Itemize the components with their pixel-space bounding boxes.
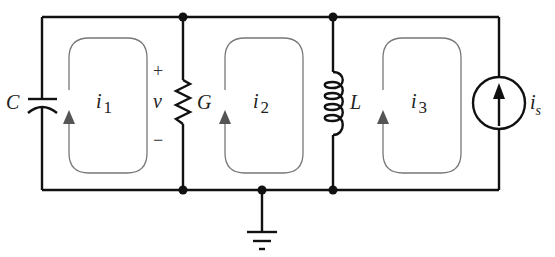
capacitor-label: C <box>6 91 20 113</box>
capacitor: C <box>6 91 57 113</box>
inductor: L <box>325 72 361 135</box>
mesh-current-2-sub: 2 <box>261 98 270 117</box>
resistor-zigzag <box>176 80 190 124</box>
voltage-plus-sign: + <box>153 61 163 81</box>
voltage-label: v <box>153 90 162 112</box>
current-source: is <box>473 77 542 129</box>
mesh-current-3-label: i3 <box>411 90 427 117</box>
resistor: G <box>176 80 212 124</box>
inductor-coil <box>325 72 343 135</box>
mesh-current-3-sub: 3 <box>419 98 428 117</box>
mesh-current-1-main: i <box>96 90 102 112</box>
conductance-label: G <box>197 91 212 113</box>
node-bottom-l <box>329 186 338 195</box>
voltage-minus-sign: − <box>153 130 163 150</box>
node-bottom-g <box>179 186 188 195</box>
current-source-arrowhead-icon <box>493 83 505 99</box>
current-source-label-sub: s <box>536 103 542 118</box>
mesh-current-1-label: i1 <box>96 90 112 117</box>
mesh-loop-1-arrow-icon <box>63 110 75 124</box>
current-source-label: is <box>530 91 542 118</box>
mesh-current-2-main: i <box>253 90 259 112</box>
node-top-g <box>179 13 188 22</box>
ground-symbol <box>247 190 277 249</box>
inductor-label: L <box>349 91 361 113</box>
circuit-diagram: C G + v − L is <box>0 0 555 257</box>
mesh-loop-3-arrow-icon <box>377 110 389 124</box>
mesh-loop-2-arrow-icon <box>219 110 231 124</box>
mesh-loop-1: i1 <box>63 38 147 173</box>
node-top-l <box>329 13 338 22</box>
mesh-current-2-label: i2 <box>253 90 269 117</box>
mesh-current-1-sub: 1 <box>104 98 113 117</box>
mesh-loop-3: i3 <box>377 38 461 173</box>
mesh-current-3-main: i <box>411 90 417 112</box>
mesh-loop-2: i2 <box>219 38 303 173</box>
voltage-marking: + v − <box>153 61 163 150</box>
